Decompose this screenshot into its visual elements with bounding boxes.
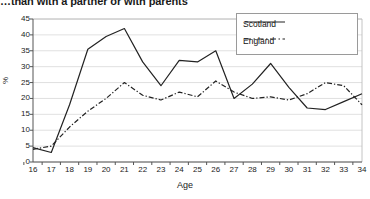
series-line-england [33, 81, 362, 149]
legend-item-scotland: Scotland [243, 17, 276, 31]
legend-sample-solid-icon [243, 17, 287, 27]
chart-figure: …than with a partner or with parents % A… [0, 0, 370, 199]
legend-item-england: England [243, 34, 274, 48]
chart-legend: Scotland England [236, 13, 358, 55]
legend-sample-dashdot-icon [243, 34, 287, 44]
